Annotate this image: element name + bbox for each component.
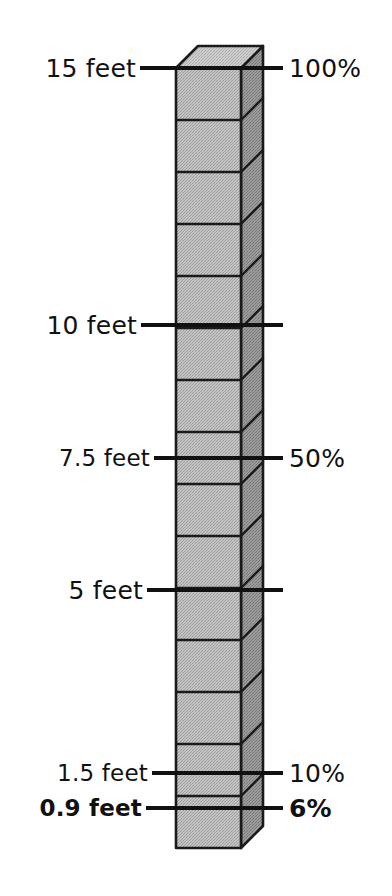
percent-label-mark-0-9-feet: 6% [289,796,332,821]
feet-label-mark-7-5-feet: 7.5 feet [59,447,150,470]
feet-label-mark-15-feet: 15 feet [45,56,136,81]
feet-label-mark-5-feet: 5 feet [69,578,143,603]
feet-label-mark-10-feet: 10 feet [46,313,137,338]
feet-label-mark-1-5-feet: 1.5 feet [57,762,148,785]
percent-label-mark-15-feet: 100% [289,56,361,81]
height-scale-diagram: 15 feet10 feet7.5 feet5 feet1.5 feet0.9 … [0,0,392,896]
cube-stack [176,46,263,848]
column-side-face [241,46,263,848]
feet-label-mark-0-9-feet: 0.9 feet [39,797,142,820]
percent-label-mark-7-5-feet: 50% [289,446,345,471]
percent-label-mark-1-5-feet: 10% [289,761,345,786]
